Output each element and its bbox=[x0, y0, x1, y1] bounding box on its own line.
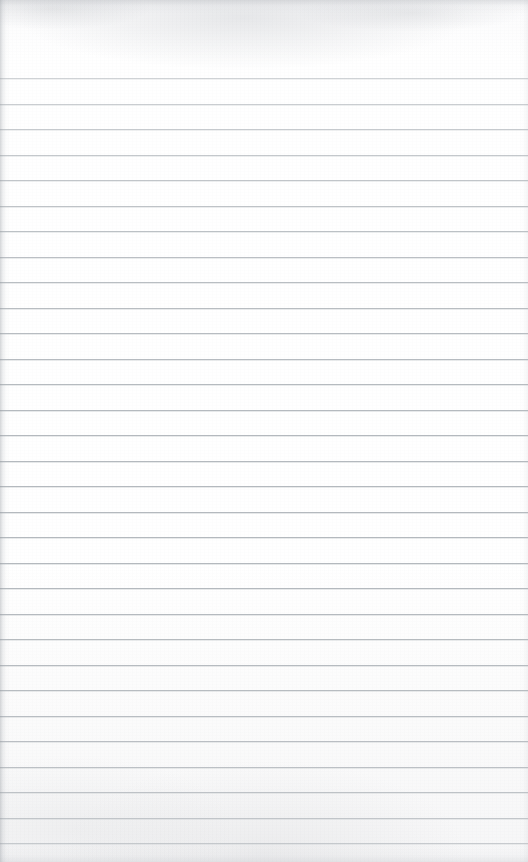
ruled-line bbox=[0, 486, 528, 487]
ruled-line bbox=[0, 716, 528, 717]
ruled-line bbox=[0, 78, 528, 79]
ruled-line bbox=[0, 741, 528, 742]
ruled-line bbox=[0, 282, 528, 283]
ruled-line bbox=[0, 767, 528, 768]
ruled-line bbox=[0, 231, 528, 232]
ruled-line bbox=[0, 843, 528, 844]
ruled-line bbox=[0, 308, 528, 309]
ruled-line bbox=[0, 512, 528, 513]
ruled-line bbox=[0, 104, 528, 105]
top-edge-shadow bbox=[0, 0, 528, 14]
ruled-line bbox=[0, 690, 528, 691]
ruled-line bbox=[0, 435, 528, 436]
ruled-line bbox=[0, 410, 528, 411]
ruled-line bbox=[0, 155, 528, 156]
ruled-line bbox=[0, 257, 528, 258]
ruled-line bbox=[0, 563, 528, 564]
ruled-line bbox=[0, 129, 528, 130]
ruled-line bbox=[0, 384, 528, 385]
bottom-edge-shadow bbox=[0, 846, 528, 862]
ruled-line bbox=[0, 537, 528, 538]
ruled-line bbox=[0, 359, 528, 360]
ruled-line bbox=[0, 461, 528, 462]
ruled-line bbox=[0, 792, 528, 793]
ruled-line bbox=[0, 588, 528, 589]
ruled-line bbox=[0, 206, 528, 207]
scanned-page bbox=[0, 0, 528, 862]
right-edge-shadow bbox=[520, 0, 528, 862]
left-edge-shadow bbox=[0, 0, 10, 862]
ruled-line bbox=[0, 180, 528, 181]
ruled-line bbox=[0, 665, 528, 666]
ruled-lines-group bbox=[0, 0, 528, 862]
ruled-line bbox=[0, 333, 528, 334]
ruled-line bbox=[0, 639, 528, 640]
ruled-line bbox=[0, 614, 528, 615]
ruled-line bbox=[0, 818, 528, 819]
